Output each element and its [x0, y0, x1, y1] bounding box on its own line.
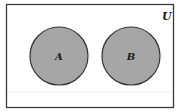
venn-diagram: U A B: [0, 0, 180, 112]
set-a-label: A: [54, 51, 63, 62]
universe-label: U: [162, 10, 173, 23]
set-b-label: B: [126, 51, 135, 62]
